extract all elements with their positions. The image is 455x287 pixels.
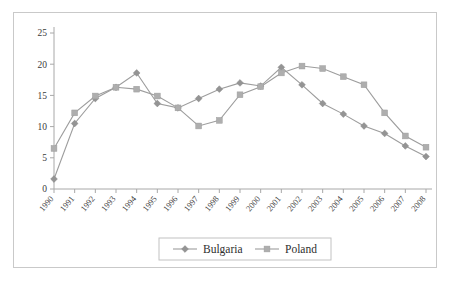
data-point-marker bbox=[382, 110, 388, 116]
x-tick-label: 1992 bbox=[78, 194, 97, 213]
data-point-marker bbox=[258, 84, 264, 90]
x-tick-label: 1994 bbox=[120, 193, 139, 213]
y-tick-label: 5 bbox=[42, 153, 47, 163]
data-point-marker bbox=[340, 111, 347, 118]
data-point-marker bbox=[423, 153, 430, 160]
x-tick-label: 1999 bbox=[223, 194, 242, 213]
x-tick-label: 1993 bbox=[99, 194, 118, 213]
data-point-marker bbox=[299, 63, 305, 69]
y-tick-label: 15 bbox=[38, 91, 48, 101]
data-point-marker bbox=[133, 70, 140, 77]
x-tick-label: 2000 bbox=[244, 194, 263, 213]
data-point-marker bbox=[402, 143, 409, 150]
data-point-marker bbox=[237, 80, 244, 87]
series-poland bbox=[51, 63, 429, 151]
x-tick-label: 1997 bbox=[182, 194, 201, 213]
y-tick-label: 0 bbox=[42, 184, 47, 194]
data-point-marker bbox=[361, 123, 368, 130]
series-bulgaria bbox=[51, 64, 430, 182]
x-tick-label: 2008 bbox=[409, 194, 428, 213]
x-tick-label: 2005 bbox=[347, 194, 366, 213]
data-point-marker bbox=[216, 117, 222, 123]
data-point-marker bbox=[381, 130, 388, 137]
data-point-marker bbox=[154, 100, 161, 107]
y-axis: 0510152025 bbox=[38, 27, 55, 194]
data-point-marker bbox=[175, 105, 181, 111]
x-tick-label: 2003 bbox=[306, 194, 325, 213]
line-chart-svg: 0510152025199019911992199319941995199619… bbox=[14, 13, 436, 267]
data-point-marker bbox=[423, 144, 429, 150]
data-point-marker bbox=[402, 133, 408, 139]
data-point-marker bbox=[51, 176, 58, 183]
chart-plot-area: 0510152025199019911992199319941995199619… bbox=[14, 13, 436, 267]
data-point-marker bbox=[196, 123, 202, 129]
data-point-marker bbox=[92, 93, 98, 99]
x-tick-label: 2001 bbox=[264, 194, 283, 213]
x-tick-label: 1998 bbox=[202, 194, 221, 213]
chart-figure-frame: 0510152025199019911992199319941995199619… bbox=[13, 12, 437, 268]
data-point-marker bbox=[154, 93, 160, 99]
data-point-marker bbox=[72, 110, 78, 116]
data-point-marker bbox=[216, 86, 223, 93]
data-point-marker bbox=[237, 92, 243, 98]
data-point-marker bbox=[278, 70, 284, 76]
x-tick-label: 2004 bbox=[326, 193, 345, 213]
x-tick-label: 2006 bbox=[368, 194, 387, 213]
data-point-marker bbox=[195, 95, 202, 102]
x-tick-label: 1990 bbox=[37, 194, 56, 213]
x-tick-label: 2002 bbox=[285, 194, 304, 213]
x-tick-label: 2007 bbox=[388, 194, 407, 213]
data-point-marker bbox=[320, 66, 326, 72]
data-point-marker bbox=[361, 82, 367, 88]
x-tick-label: 1991 bbox=[58, 194, 77, 213]
x-tick-label: 1995 bbox=[140, 194, 159, 213]
data-point-marker bbox=[51, 146, 57, 152]
square-marker-icon bbox=[264, 246, 270, 252]
data-point-marker bbox=[113, 84, 119, 90]
data-point-marker bbox=[134, 86, 140, 92]
x-tick-label: 1996 bbox=[161, 194, 180, 213]
x-axis: 1990199119921993199419951996199719981999… bbox=[37, 189, 432, 213]
y-tick-label: 10 bbox=[38, 122, 48, 132]
data-point-marker bbox=[340, 74, 346, 80]
legend-label-poland: Poland bbox=[285, 243, 317, 255]
y-tick-label: 25 bbox=[38, 28, 48, 38]
chart-legend: BulgariaPoland bbox=[159, 238, 331, 260]
y-tick-label: 20 bbox=[38, 60, 48, 70]
legend-label-bulgaria: Bulgaria bbox=[203, 243, 243, 256]
